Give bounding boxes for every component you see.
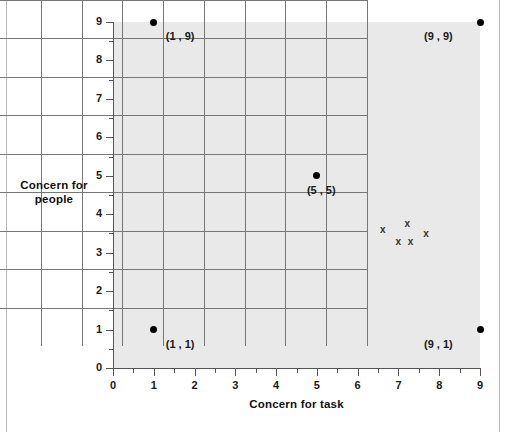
gridline-vertical [326,0,327,346]
managerial-grid-scatter-chart: 01234567890123456789 (1 , 9)(9 , 9)(5 , … [0,0,512,433]
x-axis-minor-tick [419,369,420,373]
gridline-vertical [41,0,42,346]
gridline-horizontal [0,308,367,309]
y-axis-minor-tick [109,80,113,81]
plot-area [113,22,480,368]
gridline-horizontal [0,0,367,1]
y-axis-minor-tick [109,272,113,273]
x-axis-tick-label: 2 [180,379,210,392]
y-axis-spine [113,22,114,369]
data-point-label: (9 , 1) [424,338,453,351]
x-axis-minor-tick [133,369,134,373]
x-axis-tick [317,369,318,376]
y-axis-tick-label: 7 [86,92,102,105]
y-axis-tick [106,214,113,215]
y-axis-minor-tick [109,118,113,119]
x-axis-minor-tick [174,369,175,373]
data-point-label: (5 , 5) [307,184,336,197]
gridline-horizontal [0,154,367,155]
gridline-horizontal [0,231,367,232]
gridline-vertical [367,0,368,346]
x-axis-tick [235,369,236,376]
cluster-x-marker: x [395,237,401,247]
data-point [477,326,484,333]
y-axis-minor-tick [109,195,113,196]
gridline-horizontal [0,115,367,116]
gridline-horizontal [0,77,367,78]
x-axis-tick [113,369,114,376]
data-point [150,19,157,26]
y-axis-tick [106,22,113,23]
y-axis-tick-label: 4 [86,207,102,220]
x-axis-tick [195,369,196,376]
x-axis-tick-label: 0 [98,379,128,392]
y-axis-minor-tick [109,41,113,42]
y-axis-tick-label: 6 [86,130,102,143]
y-axis-minor-tick [109,233,113,234]
y-axis-tick [106,99,113,100]
y-axis-title: Concern for people [6,178,102,206]
data-point [477,19,484,26]
data-point-label: (9 , 9) [424,30,453,43]
x-axis-tick-label: 6 [343,379,373,392]
gridline-vertical [163,0,164,346]
y-axis-tick-label: 9 [86,15,102,28]
y-axis-tick [106,253,113,254]
y-axis-tick-label: 3 [86,246,102,259]
gridline-vertical [122,0,123,346]
cluster-x-marker: x [380,225,386,235]
y-axis-minor-tick [109,310,113,311]
x-axis-tick [154,369,155,376]
y-axis-tick-label: 2 [86,284,102,297]
gridline-vertical [204,0,205,346]
y-axis-minor-tick [109,349,113,350]
x-axis-minor-tick [337,369,338,373]
cluster-x-marker: x [404,219,410,229]
y-axis-tick [106,176,113,177]
x-axis-tick-label: 4 [261,379,291,392]
y-axis-tick-label: 1 [86,323,102,336]
y-axis-tick-label: 0 [86,361,102,374]
gridline-vertical [82,0,83,346]
y-axis-tick [106,137,113,138]
x-axis-tick-label: 9 [465,379,495,392]
data-point-label: (1 , 1) [166,338,195,351]
y-axis-tick-label: 8 [86,53,102,66]
x-axis-minor-tick [215,369,216,373]
x-axis-minor-tick [378,369,379,373]
x-axis-minor-tick [297,369,298,373]
data-point-label: (1 , 9) [166,30,195,43]
x-axis-title: Concern for task [113,398,480,410]
x-axis-tick-label: 7 [383,379,413,392]
x-axis-tick-label: 1 [139,379,169,392]
y-axis-tick [106,291,113,292]
y-axis-tick [106,330,113,331]
cluster-x-marker: x [408,237,414,247]
cluster-x-marker: x [423,229,429,239]
y-axis-tick [106,368,113,369]
x-axis-tick-label: 5 [302,379,332,392]
x-axis-minor-tick [460,369,461,373]
gridline-vertical [245,0,246,346]
gridline-horizontal [0,269,367,270]
y-axis-title-line1: Concern for [20,179,87,191]
x-axis-tick [398,369,399,376]
x-axis-tick [358,369,359,376]
y-axis-title-line2: people [35,193,73,205]
y-axis-tick [106,60,113,61]
x-axis-tick [439,369,440,376]
x-axis-minor-tick [256,369,257,373]
x-axis-tick-label: 3 [220,379,250,392]
y-axis-minor-tick [109,157,113,158]
gridline-vertical [285,0,286,346]
x-axis-tick [480,369,481,376]
x-axis-tick [276,369,277,376]
x-axis-tick-label: 8 [424,379,454,392]
